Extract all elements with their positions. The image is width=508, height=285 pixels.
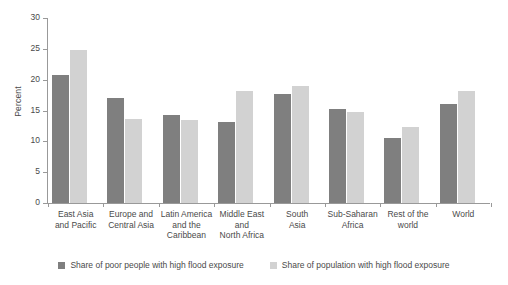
x-axis-category-label-line: Asia — [270, 220, 325, 231]
x-axis-category-label-line: North Africa — [214, 230, 269, 241]
bar-chart: Percent 051015202530 East Asiaand Pacifi… — [0, 0, 508, 285]
bar — [274, 94, 291, 203]
x-axis-category-label-line: Middle East — [214, 209, 269, 220]
y-axis-tick-label: 20 — [31, 74, 40, 85]
y-axis-tick-label: 10 — [31, 135, 40, 146]
x-axis-tick-mark — [436, 203, 437, 207]
x-axis-category-label-line: Latin America — [159, 209, 214, 220]
x-axis-category-label: Europe andCentral Asia — [103, 209, 158, 230]
legend-label: Share of poor people with high flood exp… — [70, 260, 243, 270]
y-axis-tick: 25 — [23, 49, 47, 50]
y-axis-tick: 30 — [23, 18, 47, 19]
bar — [236, 91, 253, 203]
bar — [181, 120, 198, 203]
x-axis-category-label-line: Central Asia — [103, 220, 158, 231]
x-axis-tick-mark — [103, 203, 104, 207]
bar — [384, 138, 401, 203]
y-axis-tick: 15 — [23, 111, 47, 112]
x-axis-category-label-line: South — [270, 209, 325, 220]
y-axis-tick: 0 — [23, 203, 47, 204]
x-axis-category-label: Rest of theworld — [380, 209, 435, 230]
bar-group — [214, 18, 269, 203]
bar-group — [325, 18, 380, 203]
bar — [107, 98, 124, 203]
bar-group — [380, 18, 435, 203]
x-axis-category-label-line: and — [214, 220, 269, 231]
y-axis-tick: 10 — [23, 141, 47, 142]
chart-legend: Share of poor people with high flood exp… — [0, 258, 508, 272]
bars-layer — [48, 18, 490, 203]
y-axis-tick-mark — [43, 80, 47, 81]
x-axis-category-label-line: and Pacific — [48, 220, 103, 231]
x-axis-category-label: Latin Americaand theCaribbean — [159, 209, 214, 241]
bar — [125, 119, 142, 203]
bar — [329, 109, 346, 203]
x-axis-tick-mark — [270, 203, 271, 207]
x-axis-category-label-line: Sub-Saharan — [325, 209, 380, 220]
x-axis-category-label-line: Europe and — [103, 209, 158, 220]
bar — [52, 75, 69, 203]
bar-group — [270, 18, 325, 203]
bar — [440, 104, 457, 203]
legend-item[interactable]: Share of poor people with high flood exp… — [58, 260, 243, 270]
bar — [347, 112, 364, 203]
plot-area: 051015202530 — [47, 18, 490, 203]
x-axis-category-label: Sub-SaharanAfrica — [325, 209, 380, 230]
x-axis-category-label: SouthAsia — [270, 209, 325, 230]
bar-group — [436, 18, 491, 203]
y-axis-tick-mark — [43, 18, 47, 19]
bar — [402, 127, 419, 203]
legend-swatch — [270, 262, 277, 269]
x-axis-category-label-line: East Asia — [48, 209, 103, 220]
legend-item[interactable]: Share of population with high flood expo… — [270, 260, 450, 270]
y-axis-tick: 5 — [23, 172, 47, 173]
x-axis-category-label-line: and the — [159, 220, 214, 231]
y-axis-tick-mark — [43, 49, 47, 50]
y-axis-tick-label: 5 — [35, 166, 40, 177]
x-axis-tick-mark — [48, 203, 49, 207]
legend-label: Share of population with high flood expo… — [282, 260, 450, 270]
bar — [458, 91, 475, 203]
x-axis-labels: East Asiaand PacificEurope andCentral As… — [48, 209, 491, 251]
y-axis-tick-label: 0 — [35, 197, 40, 208]
y-axis-tick-mark — [43, 203, 47, 204]
y-axis-tick-label: 15 — [31, 105, 40, 116]
x-axis-category-label-line: World — [436, 209, 491, 220]
x-axis-category-label-line: world — [380, 220, 435, 231]
x-axis-category-label: World — [436, 209, 491, 220]
y-axis-tick-label: 25 — [31, 43, 40, 54]
bar — [218, 122, 235, 203]
x-axis-tick-mark — [159, 203, 160, 207]
y-axis-tick-mark — [43, 141, 47, 142]
legend-swatch — [58, 262, 65, 269]
y-axis-tick-mark — [43, 111, 47, 112]
y-axis-tick: 20 — [23, 80, 47, 81]
bar-group — [159, 18, 214, 203]
x-axis-category-label-line: Africa — [325, 220, 380, 231]
x-axis-tick-mark — [214, 203, 215, 207]
x-axis-category-label-line: Rest of the — [380, 209, 435, 220]
x-axis-tick-mark — [491, 203, 492, 207]
bar — [163, 115, 180, 203]
bar — [70, 50, 87, 203]
bar — [292, 86, 309, 203]
x-axis-category-label-line: Caribbean — [159, 230, 214, 241]
x-axis-tick-mark — [380, 203, 381, 207]
bar-group — [103, 18, 158, 203]
x-axis-category-label: Middle EastandNorth Africa — [214, 209, 269, 241]
y-axis-tick-mark — [43, 172, 47, 173]
x-axis-category-label: East Asiaand Pacific — [48, 209, 103, 230]
x-axis-tick-mark — [325, 203, 326, 207]
bar-group — [48, 18, 103, 203]
y-axis-tick-label: 30 — [31, 12, 40, 23]
